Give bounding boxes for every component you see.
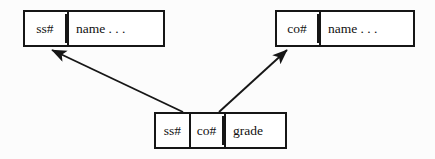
student-key-field: ss# [25,12,65,45]
enrollment-relation: ss# co# grade [154,112,287,149]
enrollment-co-field: co# [189,114,222,147]
course-key-field: co# [277,12,317,45]
foreign-key-arrow-ss [52,50,183,112]
enrollment-ss-field: ss# [156,114,189,147]
course-relation: co# name . . . [275,10,415,47]
course-attributes-field: name . . . [319,12,413,45]
student-relation: ss# name . . . [23,10,165,47]
foreign-key-arrow-co [219,50,287,112]
enrollment-grade-field: grade [224,114,285,147]
diagram-canvas: ss# name . . . co# name . . . ss# co# gr… [0,0,435,159]
student-attributes-field: name . . . [67,12,163,45]
